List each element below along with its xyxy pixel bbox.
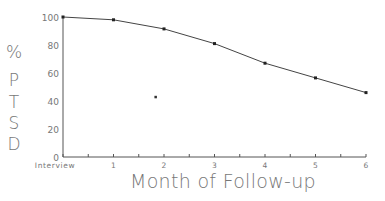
x-tick-label: 2 [162,161,167,170]
data-point-marker [365,91,368,94]
data-point-marker [62,16,65,19]
y-tick-label: 60 [48,69,60,79]
annotations [154,96,157,99]
y-tick-label: 100 [42,13,59,23]
y-axis-title-letter: T [6,92,22,112]
data-point-marker [314,76,317,79]
y-tick-label: 20 [48,125,60,135]
y-axis-title-letter: S [6,113,22,133]
x-tick-label: 3 [212,161,217,170]
stray-dot [154,96,157,99]
y-tick-label: 40 [48,97,60,107]
x-tick-label: Interview [35,161,75,170]
data-point-marker [264,62,267,65]
y-axis: 020406080100 [42,13,63,163]
x-tick-label: 6 [364,161,369,170]
y-axis-title-letter: P [6,70,22,90]
x-axis-title: Month of Follow-up [130,170,316,192]
data-series [62,16,368,95]
x-tick-label: 5 [313,161,318,170]
x-tick-label: 1 [111,161,116,170]
data-point-marker [163,27,166,30]
y-axis-title-letter: % [6,42,22,62]
y-axis-title-letter: D [6,134,22,154]
x-tick-label: 4 [263,161,268,170]
y-tick-label: 80 [48,41,60,51]
data-point-marker [112,18,115,21]
x-axis: Interview123456 [35,154,369,170]
data-point-marker [213,42,216,45]
